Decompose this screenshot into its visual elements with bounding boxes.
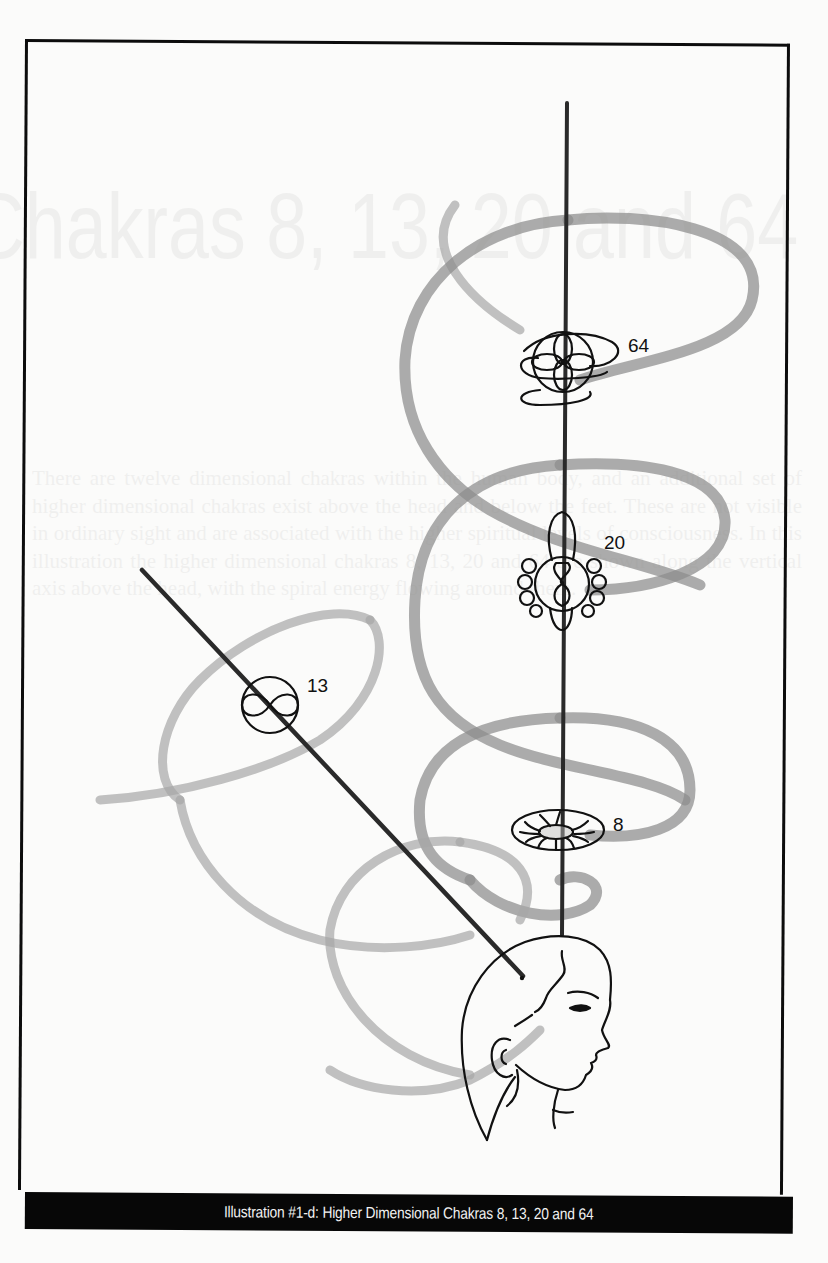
chakra-diagram: 64 20 13 xyxy=(0,0,828,1263)
chakra-20-label: 20 xyxy=(604,532,625,553)
illustration-caption: Illustration #1-d: Higher Dimensional Ch… xyxy=(224,1203,594,1223)
book-page: Chakras 8, 13, 20 and 64 There are twelv… xyxy=(0,0,828,1263)
chakra-13-infinity-circle-icon xyxy=(242,677,298,733)
spiral-energy-ribbon xyxy=(100,205,754,1091)
caption-bar: Illustration #1-d: Higher Dimensional Ch… xyxy=(25,1192,793,1234)
chakra-8-label: 8 xyxy=(613,814,624,835)
chakra-64-label: 64 xyxy=(628,335,650,356)
crown-point-dot xyxy=(520,976,524,980)
chakra-13-label: 13 xyxy=(307,675,328,696)
